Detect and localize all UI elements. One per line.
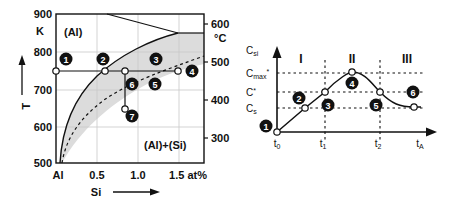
y-labels: Csi Cmax* C* Cs — [246, 45, 269, 115]
svg-text:Cs: Cs — [246, 103, 257, 115]
svg-text:t1: t1 — [320, 138, 327, 150]
marker-5: 5 — [373, 101, 378, 111]
point-open — [175, 68, 181, 74]
unit-k: K — [36, 25, 44, 37]
svg-text:500: 500 — [34, 157, 52, 169]
svg-text:C*: C* — [246, 87, 256, 98]
region-alsi-label: (Al)+(Si) — [144, 139, 187, 151]
svg-text:300: 300 — [211, 132, 229, 144]
marker-3: 3 — [153, 55, 158, 65]
svg-text:900: 900 — [34, 8, 52, 20]
svg-text:II: II — [349, 52, 356, 66]
stage-labels: I II III — [299, 52, 412, 66]
marker-6: 6 — [410, 88, 415, 98]
figure: 1 2 3 4 5 6 7 (Al) (Al)+(Si) 900 800 700… — [0, 0, 452, 204]
svg-text:400: 400 — [211, 94, 229, 106]
svg-text:500: 500 — [211, 56, 229, 68]
point-open — [122, 106, 128, 112]
svg-text:I: I — [299, 52, 302, 66]
marker-6: 6 — [129, 80, 134, 90]
svg-text:700: 700 — [34, 84, 52, 96]
x-ticks: Al 0.5 1.0 1.5 at% — [53, 169, 208, 181]
svg-text:t2: t2 — [375, 138, 382, 150]
svg-text:Cmax*: Cmax* — [246, 68, 269, 80]
marker-2: 2 — [296, 94, 301, 104]
liquidus-line — [107, 14, 178, 33]
region-al-label: (Al) — [64, 26, 83, 38]
marker-4: 4 — [189, 67, 194, 77]
svg-text:Al: Al — [53, 169, 64, 181]
x-labels: t0 t1 t2 tA — [274, 138, 424, 150]
point-open — [122, 68, 128, 74]
svg-text:600: 600 — [34, 121, 52, 133]
marker-5: 5 — [152, 80, 157, 90]
marker-4: 4 — [349, 79, 354, 89]
marker-3: 3 — [325, 101, 330, 111]
markers-right: 1 2 3 4 5 6 — [260, 77, 420, 133]
marker-1: 1 — [63, 55, 68, 65]
svg-text:1.0: 1.0 — [130, 169, 145, 181]
y-axis-label: T — [20, 102, 32, 109]
marker-2: 2 — [100, 55, 105, 65]
x-axis-label: Si — [91, 186, 101, 198]
phase-diagram: 1 2 3 4 5 6 7 (Al) (Al)+(Si) 900 800 700… — [19, 8, 230, 198]
svg-text:0.5: 0.5 — [89, 169, 104, 181]
marker-1: 1 — [263, 122, 268, 132]
concentration-chart: 1 2 3 4 5 6 I II III Csi Cmax* C* Cs t0 … — [246, 45, 437, 150]
svg-text:t0: t0 — [274, 138, 281, 150]
svg-text:800: 800 — [34, 46, 52, 58]
unit-c: °C — [214, 32, 226, 44]
point-open — [102, 68, 108, 74]
point-open — [53, 68, 59, 74]
svg-text:600: 600 — [211, 18, 229, 30]
svg-text:Csi: Csi — [246, 45, 259, 57]
svg-text:III: III — [402, 52, 412, 66]
svg-text:tA: tA — [416, 138, 424, 150]
svg-text:1.5 at%: 1.5 at% — [169, 169, 207, 181]
marker-7: 7 — [129, 112, 134, 122]
